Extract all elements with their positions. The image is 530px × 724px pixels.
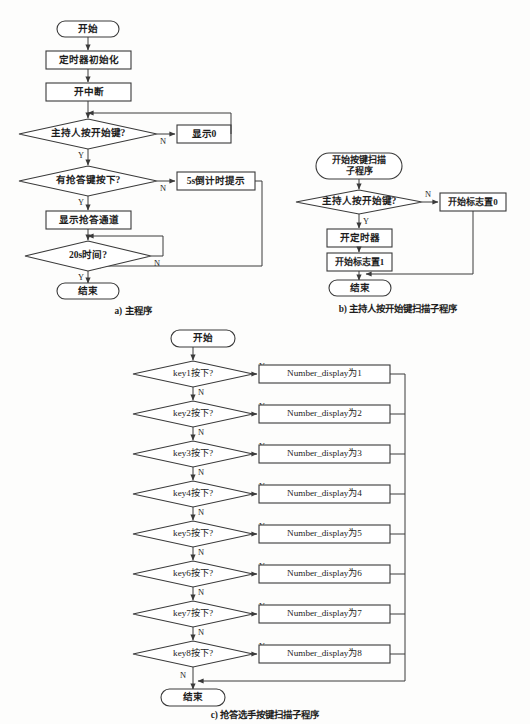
edge-a-20s-loop-up xyxy=(151,236,163,256)
node-c-end-label: 结束 xyxy=(183,691,203,702)
node-b-host-start-key[interactable]: 主持人按开始键? xyxy=(296,190,422,214)
edge-a-buzzer-no-label: N xyxy=(160,184,166,193)
node-b-flag-one[interactable]: 开始标志置1 xyxy=(327,253,392,271)
node-c-action-display7[interactable]: Number_display为7 xyxy=(259,605,390,623)
node-a-start-label: 开始 xyxy=(78,23,98,34)
node-c-action-display2[interactable]: Number_display为2 xyxy=(259,405,390,423)
node-b-start-label-line2: 子程序 xyxy=(346,165,373,176)
node-a-end[interactable]: 结束 xyxy=(57,283,119,299)
node-a-host-start-key-label: 主持人按开始键? xyxy=(51,127,126,138)
panel-c-rows: key1按下?YNumber_display为1Nkey2按下?YNumber_… xyxy=(133,361,405,689)
edge-c-key1-no-label: N xyxy=(198,388,204,397)
node-c-decision-key4-label: key4按下? xyxy=(173,487,213,498)
node-a-timer-init-label: 定时器初始化 xyxy=(59,54,119,65)
node-c-decision-key1[interactable]: key1按下? xyxy=(133,361,253,387)
node-b-start-timer[interactable]: 开定时器 xyxy=(327,229,392,247)
flowchart-canvas: 开始 定时器初始化 开中断 主持人按开始键? xyxy=(0,0,530,724)
node-c-action-display7-label: Number_display为7 xyxy=(287,607,362,618)
node-a-start[interactable]: 开始 xyxy=(57,21,119,37)
node-c-action-display1-label: Number_display为1 xyxy=(287,367,362,378)
node-a-show-channel-label: 显示抢答通道 xyxy=(59,214,119,225)
node-c-action-display8[interactable]: Number_display为8 xyxy=(259,645,390,663)
edge-c-key4-no-label: N xyxy=(198,508,204,517)
node-c-decision-key3-label: key3按下? xyxy=(173,447,213,458)
caption-b: b) 主持人按开始键扫描子程序 xyxy=(339,303,459,315)
node-c-decision-key7-label: key7按下? xyxy=(173,607,213,618)
node-a-enable-interrupt-label: 开中断 xyxy=(74,86,104,97)
node-c-end[interactable]: 结束 xyxy=(161,689,225,706)
edge-c-last-no-label: N xyxy=(180,671,186,680)
node-a-display-zero-label: 显示0 xyxy=(192,128,217,139)
node-b-flag-zero[interactable]: 开始标志置0 xyxy=(440,193,506,211)
edge-b-no-label: N xyxy=(425,190,431,199)
node-a-buzzer-pressed[interactable]: 有抢答键按下? xyxy=(19,166,157,196)
node-a-host-start-key[interactable]: 主持人按开始键? xyxy=(19,119,157,149)
node-b-flag-zero-label: 开始标志置0 xyxy=(448,196,498,207)
node-c-action-display4[interactable]: Number_display为4 xyxy=(259,485,390,503)
node-c-action-display6-label: Number_display为6 xyxy=(287,567,362,578)
node-c-decision-key6-label: key6按下? xyxy=(173,567,213,578)
panel-a-main-program: 开始 定时器初始化 开中断 主持人按开始键? xyxy=(19,21,262,317)
node-b-host-start-key-label: 主持人按开始键? xyxy=(322,195,397,206)
node-c-decision-key8-label: key8按下? xyxy=(173,647,213,658)
node-a-buzzer-pressed-label: 有抢答键按下? xyxy=(56,174,121,185)
node-c-decision-key5[interactable]: key5按下? xyxy=(133,521,253,547)
node-c-decision-key2[interactable]: key2按下? xyxy=(133,401,253,427)
panel-b-host-key-subroutine: 开始按键扫描 子程序 主持人按开始键? N 开始标志置0 Y xyxy=(296,153,506,315)
edge-c-key6-no-label: N xyxy=(198,588,204,597)
node-c-action-display5[interactable]: Number_display为5 xyxy=(259,525,390,543)
edge-c-key3-no-label: N xyxy=(198,468,204,477)
node-c-start[interactable]: 开始 xyxy=(171,330,235,347)
edge-c-key2-no-label: N xyxy=(198,428,204,437)
node-a-enable-interrupt[interactable]: 开中断 xyxy=(46,83,131,101)
node-c-decision-key3[interactable]: key3按下? xyxy=(133,441,253,467)
node-c-action-display6[interactable]: Number_display为6 xyxy=(259,565,390,583)
node-a-end-label: 结束 xyxy=(78,285,98,296)
caption-c: c) 抢答选手按键扫描子程序 xyxy=(211,709,321,721)
node-c-decision-key7[interactable]: key7按下? xyxy=(133,601,253,627)
node-c-decision-key2-label: key2按下? xyxy=(173,407,213,418)
edge-a-20s-no-label: N xyxy=(154,259,160,268)
node-c-decision-key4[interactable]: key4按下? xyxy=(133,481,253,507)
node-b-flag-one-label: 开始标志置1 xyxy=(335,256,385,267)
caption-a: a) 主程序 xyxy=(114,305,152,317)
edge-c-key7-no-label: N xyxy=(198,628,204,637)
node-c-action-display5-label: Number_display为5 xyxy=(287,527,362,538)
node-b-end[interactable]: 结束 xyxy=(329,280,391,296)
flowchart-page: 开始 定时器初始化 开中断 主持人按开始键? xyxy=(0,0,530,724)
node-c-action-display4-label: Number_display为4 xyxy=(287,487,362,498)
edge-c-key5-no-label: N xyxy=(198,548,204,557)
node-c-decision-key8[interactable]: key8按下? xyxy=(133,641,253,667)
node-b-end-label: 结束 xyxy=(350,282,370,293)
node-a-countdown-5s[interactable]: 5s倒计时提示 xyxy=(177,172,255,190)
node-a-show-channel[interactable]: 显示抢答通道 xyxy=(46,211,131,229)
node-c-action-display3[interactable]: Number_display为3 xyxy=(259,445,390,463)
node-a-display-zero[interactable]: 显示0 xyxy=(177,125,231,143)
node-b-start-timer-label: 开定时器 xyxy=(340,232,380,243)
node-c-action-display8-label: Number_display为8 xyxy=(287,647,362,658)
node-c-decision-key5-label: key5按下? xyxy=(173,527,213,538)
node-c-action-display3-label: Number_display为3 xyxy=(287,447,362,458)
edge-a-host-yes-label: Y xyxy=(78,151,84,160)
node-c-start-label: 开始 xyxy=(193,332,213,343)
node-c-decision-key6[interactable]: key6按下? xyxy=(133,561,253,587)
node-c-action-display2-label: Number_display为2 xyxy=(287,407,362,418)
node-c-action-display1[interactable]: Number_display为1 xyxy=(259,365,390,383)
panel-c-player-key-subroutine: 开始 key1按下?YNumber_display为1Nkey2按下?YNumb… xyxy=(133,330,405,721)
node-a-timer-init[interactable]: 定时器初始化 xyxy=(46,51,131,69)
node-b-start-label-line1: 开始按键扫描 xyxy=(332,154,386,165)
node-a-countdown-5s-label: 5s倒计时提示 xyxy=(187,175,246,186)
edge-a-host-no-label: N xyxy=(160,137,166,146)
node-a-20s-timer-label: 20s时间? xyxy=(69,249,107,260)
node-b-start[interactable]: 开始按键扫描 子程序 xyxy=(316,153,402,179)
node-c-decision-key1-label: key1按下? xyxy=(173,367,213,378)
edge-a-20s-yes-label: Y xyxy=(78,273,84,282)
edge-a-buzzer-yes-label: Y xyxy=(78,198,84,207)
edge-b-yes-label: Y xyxy=(363,217,369,226)
